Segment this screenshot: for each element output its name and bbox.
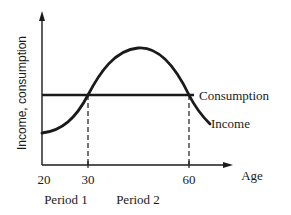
tick-label-30: 30: [82, 172, 95, 187]
consumption-label: Consumption: [199, 88, 270, 103]
x-axis-label: Age: [241, 168, 263, 183]
income-curve: [42, 48, 210, 133]
y-axis-arrow-icon: [39, 11, 45, 21]
life-cycle-chart: Income, consumption 20 30 60 Age Period …: [0, 0, 291, 215]
income-label: Income: [211, 116, 250, 131]
x-axis-arrow-icon: [223, 162, 233, 168]
y-axis-label: Income, consumption: [15, 36, 29, 150]
period-1-label: Period 1: [44, 192, 88, 207]
tick-label-60: 60: [183, 172, 196, 187]
tick-label-20: 20: [38, 172, 51, 187]
period-2-label: Period 2: [116, 192, 160, 207]
